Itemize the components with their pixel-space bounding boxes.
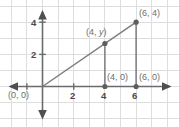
point-label-4-y-open: (4, [86, 27, 99, 37]
y-axis-down-arrow [38, 110, 47, 120]
point-label-4-y: (4, y) [86, 28, 107, 37]
point-label-6-0: (6, 0) [139, 73, 160, 82]
point-label-4-0: (4, 0) [107, 73, 128, 82]
point-label-4-y-close: ) [104, 27, 107, 37]
marker-point-6-0 [134, 84, 139, 89]
y-tick-label-2: 2 [31, 50, 36, 60]
marker-point-6-4 [134, 20, 139, 25]
x-tick-label-4: 4 [101, 91, 106, 101]
x-axis-right-arrow [162, 82, 172, 91]
point-label-6-4: (6, 4) [139, 9, 160, 18]
x-tick-label-2: 2 [70, 91, 75, 101]
x-tick-label-6: 6 [132, 91, 137, 101]
point-label-origin: (0, 0) [8, 91, 29, 100]
marker-point-4-y [102, 41, 107, 46]
grid-lines [0, 0, 179, 127]
y-tick-label-4: 4 [31, 18, 36, 28]
y-axis-up-arrow [38, 10, 47, 20]
marker-point-4-0 [102, 84, 107, 89]
graph-canvas [0, 0, 179, 127]
coordinate-plane-figure: (0, 0) (4, y) (4, 0) (6, 4) (6, 0) 2 4 6… [0, 0, 179, 127]
